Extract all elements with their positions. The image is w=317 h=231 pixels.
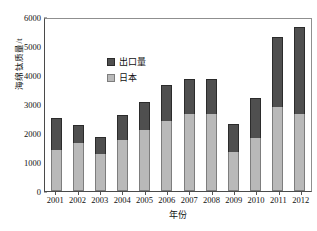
stacked-bar[interactable] (184, 79, 195, 192)
stacked-bar[interactable] (161, 85, 172, 191)
stacked-bar[interactable] (272, 37, 283, 191)
stacked-bar[interactable] (95, 137, 106, 191)
x-tick-label: 2012 (290, 195, 312, 205)
bar-slot (134, 19, 156, 191)
bar-segment-export[interactable] (184, 79, 195, 114)
legend-swatch-japan-icon (107, 74, 115, 82)
legend-item-export: 出口量 (107, 55, 146, 68)
legend-swatch-export-icon (107, 58, 115, 66)
bar-segment-export[interactable] (139, 102, 150, 130)
legend-label-export: 出口量 (119, 55, 146, 68)
y-tick-label: 5000 (8, 42, 41, 52)
stacked-bar[interactable] (250, 98, 261, 191)
bar-slot (200, 19, 222, 191)
bar-segment-japan[interactable] (294, 114, 305, 191)
bar-segment-japan[interactable] (161, 121, 172, 191)
y-tick-label: 2000 (8, 129, 41, 139)
stacked-bar[interactable] (51, 118, 62, 191)
plot-area: 出口量 日本 (44, 18, 312, 192)
bar-segment-export[interactable] (206, 79, 217, 114)
x-tick-label: 2008 (200, 195, 222, 205)
chart-figure: 海绵钛质量/t 0100020003000400050006000 出口量 日本… (0, 0, 317, 231)
bar-segment-japan[interactable] (95, 154, 106, 191)
y-tick-label: 3000 (8, 100, 41, 110)
stacked-bar[interactable] (228, 124, 239, 191)
stacked-bar[interactable] (294, 27, 305, 191)
bar-slot (45, 19, 67, 191)
stacked-bar[interactable] (139, 102, 150, 191)
bar-segment-japan[interactable] (206, 114, 217, 191)
bar-segment-export[interactable] (95, 137, 106, 154)
bar-segment-japan[interactable] (272, 107, 283, 191)
x-axis-title: 年份 (44, 208, 312, 221)
bar-slot (289, 19, 311, 191)
bar-segment-japan[interactable] (73, 143, 84, 191)
x-tick-label: 2004 (111, 195, 133, 205)
y-tick-label: 0 (8, 187, 41, 197)
bar-segment-japan[interactable] (228, 152, 239, 191)
bar-segment-export[interactable] (228, 124, 239, 152)
bar-segment-export[interactable] (117, 115, 128, 140)
bar-segment-export[interactable] (51, 118, 62, 150)
x-tick-label: 2011 (267, 195, 289, 205)
bar-segment-japan[interactable] (139, 130, 150, 191)
y-tick-label: 4000 (8, 71, 41, 81)
bar-slot (112, 19, 134, 191)
stacked-bar[interactable] (206, 79, 217, 192)
x-tick-label: 2003 (89, 195, 111, 205)
x-tick-label: 2002 (66, 195, 88, 205)
bar-segment-export[interactable] (161, 85, 172, 122)
bar-slot (267, 19, 289, 191)
x-tick-label: 2010 (245, 195, 267, 205)
y-tick-label: 1000 (8, 158, 41, 168)
legend-label-japan: 日本 (119, 71, 137, 84)
bar-segment-japan[interactable] (51, 150, 62, 191)
legend-item-japan: 日本 (107, 71, 146, 84)
bar-segment-japan[interactable] (117, 140, 128, 191)
bar-slot (178, 19, 200, 191)
bar-segment-japan[interactable] (250, 138, 261, 191)
x-axis-tick-labels: 2001200220032004200520062007200820092010… (44, 195, 312, 205)
bar-series-group (45, 19, 311, 191)
stacked-bar[interactable] (117, 115, 128, 191)
bar-segment-export[interactable] (250, 98, 261, 137)
bar-slot (67, 19, 89, 191)
y-axis-tick-labels: 0100020003000400050006000 (8, 18, 41, 192)
bar-slot (245, 19, 267, 191)
x-tick-label: 2007 (178, 195, 200, 205)
bar-slot (156, 19, 178, 191)
chart-legend: 出口量 日本 (107, 55, 146, 84)
bar-slot (222, 19, 244, 191)
bar-slot (89, 19, 111, 191)
bar-segment-export[interactable] (73, 125, 84, 142)
y-tick-label: 6000 (8, 13, 41, 23)
x-tick-label: 2005 (133, 195, 155, 205)
bar-segment-export[interactable] (294, 27, 305, 114)
x-tick-label: 2001 (44, 195, 66, 205)
bar-segment-japan[interactable] (184, 114, 195, 191)
bar-segment-export[interactable] (272, 37, 283, 107)
x-tick-label: 2009 (223, 195, 245, 205)
stacked-bar[interactable] (73, 125, 84, 191)
x-tick-label: 2006 (156, 195, 178, 205)
